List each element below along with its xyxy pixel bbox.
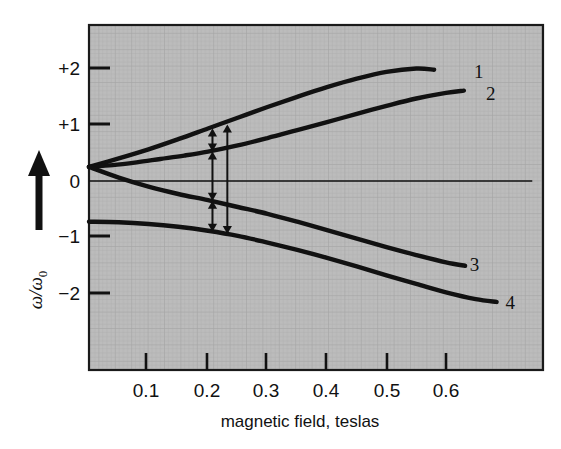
y-axis-label-sub: 0 <box>35 271 50 278</box>
x-tick-label-0p1: 0.1 <box>133 380 159 401</box>
x-tick-label-0p3: 0.3 <box>253 380 279 401</box>
x-tick-label-0p5: 0.5 <box>374 380 400 401</box>
y-tick-label-zero: 0 <box>69 171 80 192</box>
curve-label-1: 1 <box>474 61 484 82</box>
x-tick-label-0p4: 0.4 <box>313 380 340 401</box>
y-axis-label-main: ω/ω <box>25 277 46 309</box>
curve-label-4: 4 <box>506 292 516 313</box>
x-tick-label-0p6: 0.6 <box>433 380 459 401</box>
y-tick-label-minus2: −2 <box>58 283 80 304</box>
y-tick-label-minus1: −1 <box>58 226 80 247</box>
x-axis-label: magnetic field, teslas <box>221 412 380 431</box>
curve-label-2: 2 <box>486 83 496 104</box>
zeeman-splitting-chart: +2 +1 0 −1 −2 ω/ω0 0.1 0.2 0.3 0.4 0.5 0… <box>0 0 561 449</box>
y-tick-label-plus1: +1 <box>58 114 80 135</box>
x-tick-label-0p2: 0.2 <box>194 380 220 401</box>
y-tick-label-plus2: +2 <box>58 58 80 79</box>
curve-label-3: 3 <box>470 254 480 275</box>
